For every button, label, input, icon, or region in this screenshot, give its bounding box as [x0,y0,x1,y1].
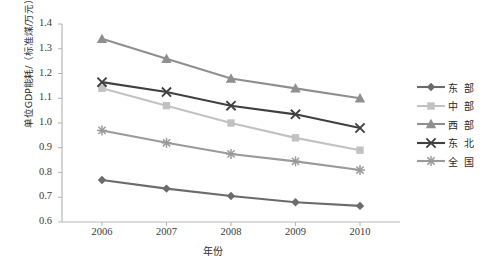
data-point-star [97,125,107,135]
y-axis-tick-label: 1.1 [18,91,52,102]
legend-item-label: 中 部 [448,98,476,113]
data-point-star [355,165,365,175]
y-axis-tick-label: 0.9 [18,141,52,152]
data-point-star [226,149,236,159]
legend-item-西部[interactable]: 西 部 [416,115,488,134]
x-axis-title: 年份 [0,243,426,258]
y-axis-tick-label: 1.4 [18,17,52,28]
x-axis-tick-label: 2008 [204,226,258,237]
series-polyline [102,39,360,98]
data-point-square [356,147,363,154]
y-axis-tick-label: 0.6 [18,215,52,226]
series-line [98,176,364,210]
legend-item-label: 东 北 [448,135,476,150]
data-point-square [227,119,234,126]
data-point-diamond [291,198,299,206]
x-axis-tick-label: 2009 [269,226,323,237]
x-axis-tick-label: 2007 [139,226,193,237]
legend-item-label: 全 国 [448,154,476,169]
series-line [97,34,365,103]
data-point-star [291,156,301,166]
y-axis-tick-label: 1.2 [18,67,52,78]
legend-item-label: 西 部 [448,117,476,132]
y-axis-tick-label: 0.7 [18,190,52,201]
data-point-diamond [227,192,235,200]
data-point-star [426,156,436,166]
legend-item-东部[interactable]: 东 部 [416,78,488,97]
data-point-square [163,102,170,109]
y-axis-tick-label: 0.8 [18,166,52,177]
legend-item-中部[interactable]: 中 部 [416,97,488,116]
chart-figure: 单位GDP能耗/（标准煤/万元） 年份 0.60.70.80.91.01.11.… [0,0,491,269]
data-point-triangle [97,34,107,43]
legend-marker-diamond-icon [416,80,446,94]
chart-series-group [97,34,365,210]
data-point-diamond [98,176,106,184]
data-point-diamond [356,202,364,210]
legend-marker-triangle-icon [416,117,446,131]
legend-item-label: 东 部 [448,80,476,95]
y-axis-tick-label: 1.0 [18,116,52,127]
y-axis-tick-label: 1.3 [18,42,52,53]
data-point-star [161,138,171,148]
legend-item-全国[interactable]: 全 国 [416,152,488,171]
legend-marker-square-icon [416,99,446,113]
chart-legend: 东 部中 部西 部东 北全 国 [416,78,488,171]
legend-marker-x-icon [416,136,446,150]
legend-marker-star-icon [416,154,446,168]
data-point-square [292,134,299,141]
legend-item-东北[interactable]: 东 北 [416,134,488,153]
series-line [97,125,365,175]
data-point-square [427,102,434,109]
x-axis-tick-label: 2006 [75,226,129,237]
data-point-diamond [427,83,435,91]
data-point-diamond [162,184,170,192]
x-axis-tick-label: 2010 [333,226,387,237]
